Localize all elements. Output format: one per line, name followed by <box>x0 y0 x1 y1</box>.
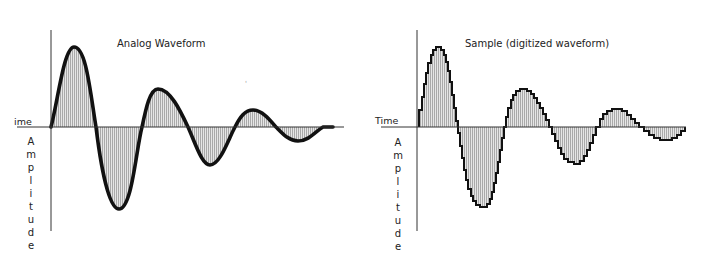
analog-time-label: ime <box>14 116 32 127</box>
analog-panel: Analog Waveform ime Amplitude ' <box>14 30 344 251</box>
figure-canvas: Analog Waveform ime Amplitude ' Sample (… <box>0 0 702 271</box>
sample-amplitude-label: Amplitude <box>393 137 403 252</box>
analog-amplitude-label: Amplitude <box>26 136 36 251</box>
analog-title: Analog Waveform <box>117 38 206 49</box>
sample-time-label: Time <box>374 115 398 126</box>
sample-title: Sample (digitized waveform) <box>465 38 609 49</box>
analog-fill <box>51 47 333 209</box>
stray-mark: ' <box>245 80 247 88</box>
sample-panel: Sample (digitized waveform) Time Amplitu… <box>374 30 686 252</box>
